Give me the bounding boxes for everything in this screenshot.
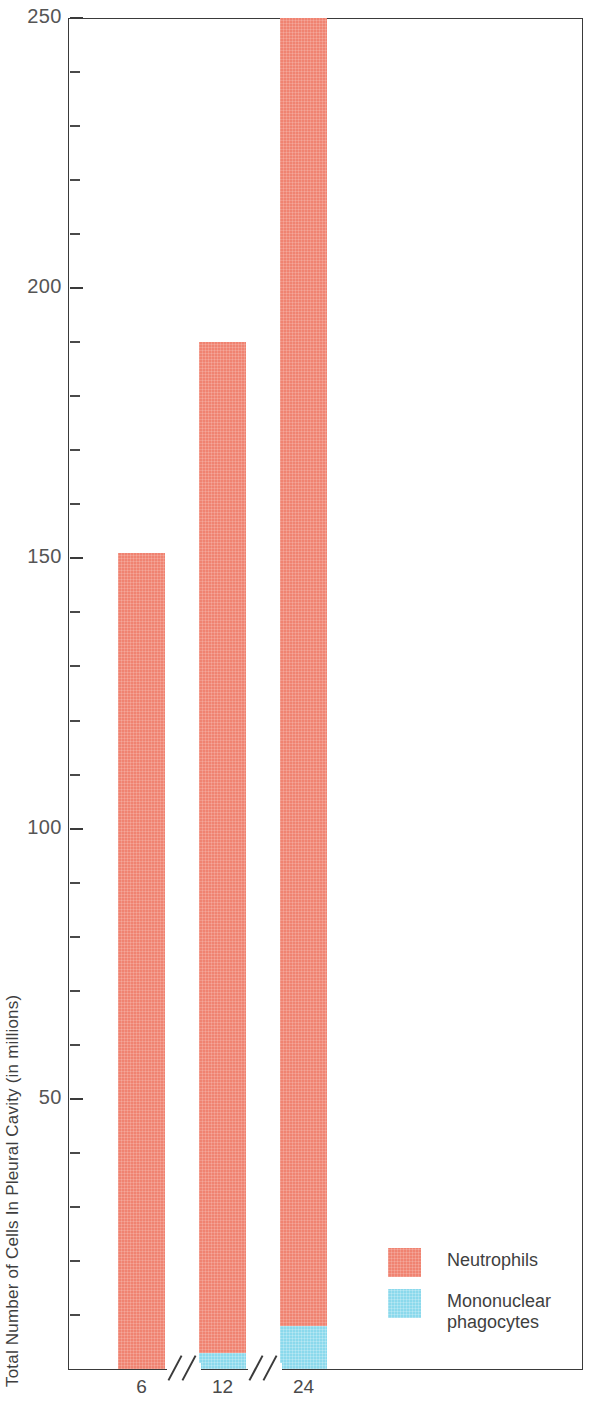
y-axis-minor-tick xyxy=(70,1260,80,1262)
axis-break-slash xyxy=(168,1355,183,1381)
x-axis-break-mark xyxy=(248,1352,282,1384)
x-axis-break-mark xyxy=(167,1352,201,1384)
y-axis-minor-tick xyxy=(70,990,80,992)
y-axis-tick-label: 250 xyxy=(0,6,62,26)
legend-item: Mononuclear phagocytes xyxy=(388,1289,551,1332)
axis-break-slash xyxy=(182,1355,197,1381)
y-axis-major-tick xyxy=(70,17,83,19)
y-axis-minor-tick xyxy=(70,503,80,505)
legend-item: Neutrophils xyxy=(388,1248,551,1277)
y-axis-minor-tick xyxy=(70,774,80,776)
y-axis-minor-tick xyxy=(70,720,80,722)
y-axis-title: Total Number of Cells In Pleural Cavity … xyxy=(0,0,26,1409)
y-axis-tick-label: 100 xyxy=(0,817,62,837)
chart-figure: Total Number of Cells In Pleural Cavity … xyxy=(0,0,611,1409)
y-axis-major-tick xyxy=(70,1098,83,1100)
x-axis-tick-label: 24 xyxy=(274,1377,334,1396)
bar-segment-mononuclear-phagocytes xyxy=(199,1353,246,1369)
y-axis-minor-tick xyxy=(70,882,80,884)
y-axis-minor-tick xyxy=(70,1152,80,1154)
y-axis-major-tick xyxy=(70,828,83,830)
bar-group xyxy=(199,342,246,1369)
y-axis-major-tick xyxy=(70,557,83,559)
bar-group xyxy=(118,553,165,1369)
x-axis-tick-label: 6 xyxy=(112,1377,172,1396)
legend-color-swatch xyxy=(388,1289,421,1318)
legend-label: Neutrophils xyxy=(447,1248,538,1271)
bar-segment-neutrophils xyxy=(280,18,327,1327)
axis-break-slash xyxy=(263,1355,278,1381)
y-axis-major-tick xyxy=(70,287,83,289)
bar-segment-neutrophils xyxy=(199,342,246,1354)
bar-segment-mononuclear-phagocytes xyxy=(280,1326,327,1369)
y-axis-minor-tick xyxy=(70,449,80,451)
y-axis-minor-tick xyxy=(70,179,80,181)
y-axis-minor-tick xyxy=(70,233,80,235)
axis-break-slash xyxy=(249,1355,264,1381)
y-axis-minor-tick xyxy=(70,611,80,613)
bar-group xyxy=(280,18,327,1369)
legend: NeutrophilsMononuclear phagocytes xyxy=(388,1248,551,1344)
y-axis-minor-tick xyxy=(70,71,80,73)
y-axis-minor-tick xyxy=(70,936,80,938)
y-axis-minor-tick xyxy=(70,395,80,397)
y-axis-minor-tick xyxy=(70,341,80,343)
y-axis-minor-tick xyxy=(70,1206,80,1208)
legend-label: Mononuclear phagocytes xyxy=(447,1289,551,1332)
y-axis-minor-tick xyxy=(70,1044,80,1046)
x-axis-tick-label: 12 xyxy=(193,1377,253,1396)
y-axis-tick-label: 150 xyxy=(0,546,62,566)
y-axis-minor-tick xyxy=(70,125,80,127)
y-axis-minor-tick xyxy=(70,1314,80,1316)
y-axis-minor-tick xyxy=(70,665,80,667)
y-axis-tick-label: 50 xyxy=(0,1087,62,1107)
legend-color-swatch xyxy=(388,1248,421,1277)
y-axis-tick-label: 200 xyxy=(0,276,62,296)
y-axis-title-text: Total Number of Cells In Pleural Cavity … xyxy=(3,995,23,1409)
bar-segment-neutrophils xyxy=(118,553,165,1369)
